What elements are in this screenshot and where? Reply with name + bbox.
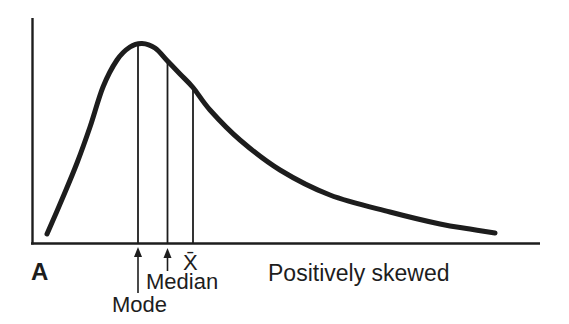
- panel-label: A: [31, 260, 48, 284]
- mode-arrow-head: [134, 247, 142, 257]
- skewed-distribution-figure: A Mode Median X̄ Positively skewed: [0, 0, 569, 324]
- distribution-curve: [47, 43, 495, 234]
- skew-caption: Positively skewed: [268, 262, 450, 285]
- mean-label: X̄: [183, 252, 198, 274]
- mode-label: Mode: [112, 294, 167, 316]
- median-arrow-head: [164, 248, 172, 258]
